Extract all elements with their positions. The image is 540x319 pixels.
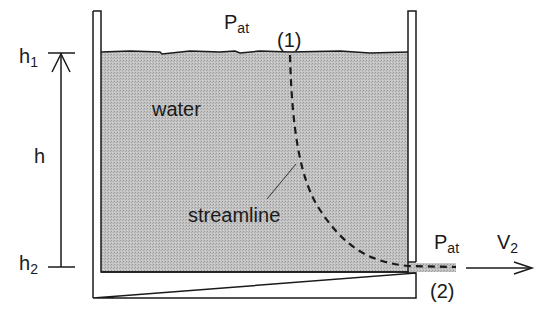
point-2-label: (2) (430, 281, 454, 301)
streamline-label: streamline (188, 205, 280, 225)
h2-label: h2 (19, 253, 38, 276)
label-sub: 2 (510, 240, 518, 256)
label-sub: 2 (30, 261, 38, 277)
label-sub: at (447, 240, 459, 256)
tank-inner-bottom (101, 272, 416, 273)
label-main: h (19, 45, 30, 67)
water-label: water (152, 99, 201, 119)
top-pressure-label: Pat (224, 12, 249, 35)
label-main: h (19, 252, 30, 274)
point-1-label: (1) (277, 30, 301, 50)
water-region (101, 51, 408, 272)
tank-diagram (0, 0, 540, 319)
label-sub: 1 (30, 54, 38, 70)
label-main: P (434, 231, 447, 253)
h-label: h (34, 146, 45, 166)
label-sub: at (237, 20, 249, 36)
label-main: V (497, 231, 510, 253)
label-main: P (224, 11, 237, 33)
velocity-label: V2 (497, 232, 518, 255)
outlet-pressure-label: Pat (434, 232, 459, 255)
h1-label: h1 (19, 46, 38, 69)
